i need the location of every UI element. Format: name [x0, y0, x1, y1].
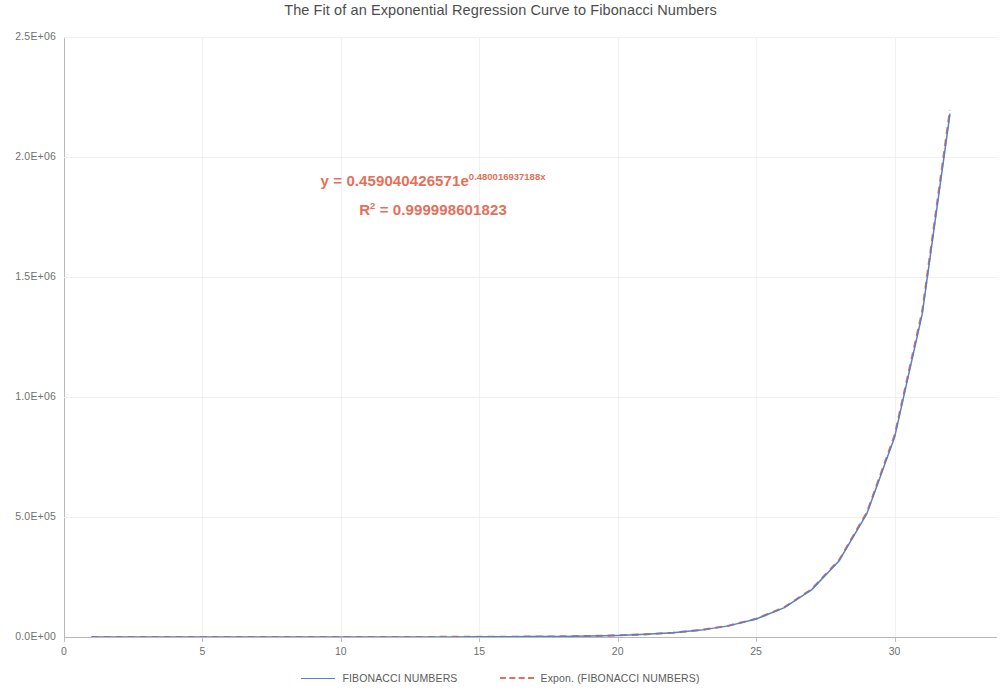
r-squared-line: R2 = 0.999998601823 — [268, 193, 598, 222]
legend-swatch-solid — [301, 678, 335, 679]
legend-label: FIBONACCI NUMBERS — [342, 672, 457, 684]
x-axis-tick-mark — [479, 638, 480, 642]
plot-area — [64, 37, 997, 637]
x-axis-tick-label: 25 — [736, 645, 776, 657]
equation-base: y = 0.459040426571e — [321, 172, 469, 189]
x-axis-tick-mark — [341, 638, 342, 642]
x-axis-tick-label: 15 — [459, 645, 499, 657]
legend-entry[interactable]: Expon. (FIBONACCI NUMBERS) — [500, 672, 700, 684]
x-axis-tick-label: 30 — [875, 645, 915, 657]
x-axis-tick-mark — [895, 638, 896, 642]
r-squared-value: = 0.999998601823 — [375, 201, 506, 218]
legend-swatch-dashed — [500, 677, 534, 679]
x-axis-tick-label: 0 — [44, 645, 84, 657]
x-axis-tick-mark — [202, 638, 203, 642]
y-axis-tick-label: 1.0E+06 — [0, 390, 56, 402]
legend-label: Expon. (FIBONACCI NUMBERS) — [541, 672, 700, 684]
data-curves — [64, 37, 997, 637]
chart-legend: FIBONACCI NUMBERSExpon. (FIBONACCI NUMBE… — [0, 672, 1001, 684]
y-axis-tick-label: 1.5E+06 — [0, 270, 56, 282]
y-axis-tick-label: 5.0E+05 — [0, 510, 56, 522]
y-axis-tick-label: 2.5E+06 — [0, 30, 56, 42]
equation-exponent: 0.480016937188x — [469, 171, 546, 182]
y-axis-tick-label: 2.0E+06 — [0, 150, 56, 162]
x-axis-tick-label: 5 — [182, 645, 222, 657]
regression-equation-annotation: y = 0.459040426571e0.480016937188x R2 = … — [268, 164, 598, 222]
regression-equation-line: y = 0.459040426571e0.480016937188x — [268, 164, 598, 193]
legend-entry[interactable]: FIBONACCI NUMBERS — [301, 672, 457, 684]
x-axis-tick-mark — [756, 638, 757, 642]
r-squared-symbol: R — [359, 201, 370, 218]
chart-title: The Fit of an Exponential Regression Cur… — [0, 2, 1001, 18]
exponential-regression-chart: The Fit of an Exponential Regression Cur… — [0, 0, 1001, 695]
x-axis-tick-label: 10 — [321, 645, 361, 657]
y-axis-tick-label: 0.0E+00 — [0, 630, 56, 642]
x-axis-tick-label: 20 — [598, 645, 638, 657]
x-axis-tick-mark — [618, 638, 619, 642]
x-axis-tick-mark — [64, 638, 65, 642]
x-axis-line — [64, 637, 997, 638]
